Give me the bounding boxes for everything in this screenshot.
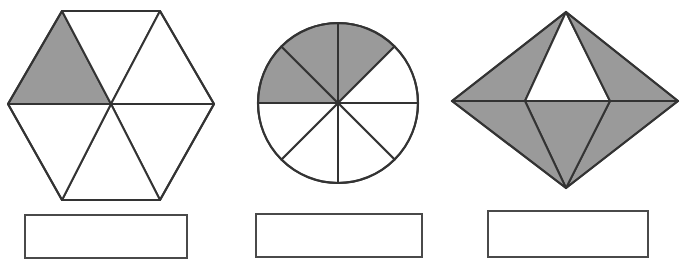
rhombus-figure [452,12,678,188]
answer-box-circle[interactable] [255,213,423,258]
answer-box-rhombus[interactable] [487,210,649,258]
circle-figure [258,23,418,183]
fraction-worksheet [0,0,683,270]
hexagon-figure [8,11,214,200]
answer-box-hexagon[interactable] [24,214,188,259]
